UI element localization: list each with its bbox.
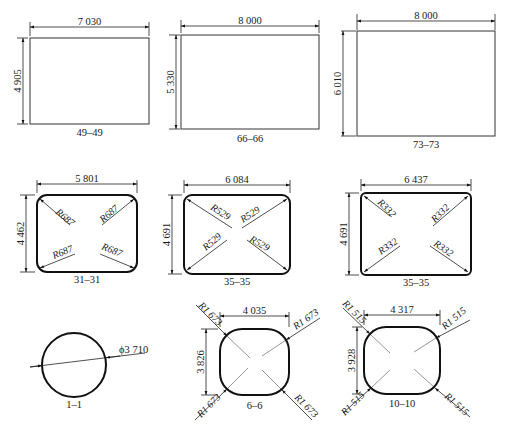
section-10-10: 4 317 3 928 R1 515 R1 515 R1 515 R1 515 … xyxy=(338,297,471,418)
section-label: 10–10 xyxy=(389,398,415,409)
radius-label: R529 xyxy=(208,201,233,222)
section-49-49: 7 030 4 905 49–49 xyxy=(12,16,149,138)
radius-label: R1 673 xyxy=(292,391,321,420)
radius-label: R687 xyxy=(53,205,78,228)
section-6-6: 4 035 3 826 R1 673 R1 673 R1 673 R1 673 … xyxy=(194,299,321,420)
height-dimension: 4 905 xyxy=(12,69,23,93)
radius-label: R1 673 xyxy=(290,306,321,332)
radius-label: R332 xyxy=(375,196,398,219)
width-dimension: 4 317 xyxy=(390,304,414,315)
width-dimension: 8 000 xyxy=(238,15,262,26)
radius-label: R529 xyxy=(237,204,262,225)
height-dimension: 3 928 xyxy=(346,349,357,373)
section-35-35-a: 6 084 4 691 R529 R529 R529 R529 35–35 xyxy=(161,174,290,287)
height-dimension: 5 330 xyxy=(165,70,176,94)
section-label: 73–73 xyxy=(413,139,439,150)
radius-label: R687 xyxy=(96,202,121,225)
section-73-73: 8 000 6 010 73–73 xyxy=(332,10,495,150)
radius-label: R687 xyxy=(99,240,125,259)
radius-label: R1 673 xyxy=(194,391,223,420)
height-dimension: 6 010 xyxy=(332,72,343,96)
radius-label: R1 515 xyxy=(442,390,471,418)
height-dimension: 4 691 xyxy=(338,222,349,246)
width-dimension: 8 000 xyxy=(414,10,438,21)
section-35-35-b: 6 437 4 691 R332 R332 R332 R332 35–35 xyxy=(338,174,471,288)
height-dimension: 3 826 xyxy=(195,350,206,374)
width-dimension: 5 801 xyxy=(75,173,99,184)
section-31-31: 5 801 4 462 R687 R687 R687 R687 31–31 xyxy=(15,173,137,285)
radius-label: R332 xyxy=(375,236,399,258)
radius-label: R529 xyxy=(199,231,223,254)
width-dimension: 6 437 xyxy=(404,174,428,185)
section-label: 31–31 xyxy=(74,274,100,285)
diameter-label: ϕ3 710 xyxy=(119,344,148,355)
radius-label: R687 xyxy=(50,242,76,261)
radius-label: R529 xyxy=(247,233,272,254)
section-label: 1–1 xyxy=(66,399,82,410)
section-1-1: ϕ3 710 1–1 xyxy=(30,333,148,410)
width-dimension: 4 035 xyxy=(243,305,267,316)
width-dimension: 6 084 xyxy=(225,174,249,185)
section-label: 35–35 xyxy=(403,277,429,288)
cross-section-drawings: 7 030 4 905 49–49 8 000 5 330 66–66 8 00… xyxy=(0,0,510,437)
section-label: 49–49 xyxy=(76,127,102,138)
section-66-66: 8 000 5 330 66–66 xyxy=(165,15,319,144)
height-dimension: 4 462 xyxy=(15,222,26,246)
width-dimension: 7 030 xyxy=(78,16,102,27)
radius-label: R1 515 xyxy=(438,305,468,332)
section-label: 66–66 xyxy=(237,133,263,144)
section-label: 35–35 xyxy=(224,276,250,287)
height-dimension: 4 691 xyxy=(161,223,172,247)
section-label: 6–6 xyxy=(247,400,263,411)
